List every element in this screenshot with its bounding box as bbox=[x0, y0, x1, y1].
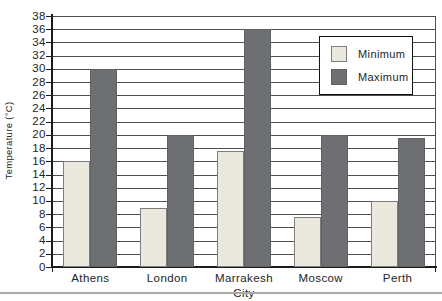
y-tick-24 bbox=[46, 108, 51, 109]
y-tick-label-28: 28 bbox=[6, 77, 46, 88]
y-tick-label-38: 38 bbox=[6, 11, 46, 22]
y-tick-18 bbox=[46, 148, 51, 149]
y-tick-32 bbox=[46, 56, 51, 57]
y-tick-label-32: 32 bbox=[6, 50, 46, 61]
bar-maximum-london bbox=[167, 135, 194, 267]
x-axis-end-tick-1 bbox=[435, 267, 436, 272]
bar-minimum-athens bbox=[63, 161, 90, 267]
bar-minimum-london bbox=[140, 208, 167, 267]
temperature-bar-chart: Temperature (°C) City Minimum Maximum 02… bbox=[0, 0, 442, 301]
plot-right-border bbox=[435, 16, 436, 267]
y-tick-label-10: 10 bbox=[6, 195, 46, 206]
y-tick-label-18: 18 bbox=[6, 143, 46, 154]
y-tick-26 bbox=[46, 95, 51, 96]
y-tick-label-6: 6 bbox=[6, 222, 46, 233]
y-tick-30 bbox=[46, 69, 51, 70]
y-axis-line bbox=[51, 14, 53, 268]
y-tick-label-8: 8 bbox=[6, 209, 46, 220]
y-tick-label-22: 22 bbox=[6, 116, 46, 127]
y-tick-label-26: 26 bbox=[6, 90, 46, 101]
y-tick-label-30: 30 bbox=[6, 63, 46, 74]
y-tick-label-12: 12 bbox=[6, 182, 46, 193]
y-tick-label-14: 14 bbox=[6, 169, 46, 180]
y-tick-8 bbox=[46, 214, 51, 215]
bar-minimum-perth bbox=[371, 201, 398, 267]
y-tick-12 bbox=[46, 188, 51, 189]
y-tick-36 bbox=[46, 29, 51, 30]
legend-entry-minimum: Minimum bbox=[331, 46, 412, 62]
legend-label-maximum: Maximum bbox=[358, 71, 408, 83]
legend-entry-maximum: Maximum bbox=[331, 69, 412, 85]
bottom-rule bbox=[0, 292, 442, 294]
bar-minimum-moscow bbox=[294, 217, 321, 267]
x-axis-end-tick-0 bbox=[52, 267, 53, 272]
x-category-label-perth: Perth bbox=[348, 272, 442, 284]
legend-label-minimum: Minimum bbox=[358, 48, 405, 60]
y-tick-label-24: 24 bbox=[6, 103, 46, 114]
bar-minimum-marrakesh bbox=[217, 151, 244, 267]
y-tick-label-0: 0 bbox=[6, 262, 46, 273]
y-tick-10 bbox=[46, 201, 51, 202]
y-tick-20 bbox=[46, 135, 51, 136]
y-tick-16 bbox=[46, 161, 51, 162]
y-tick-label-34: 34 bbox=[6, 37, 46, 48]
legend: Minimum Maximum bbox=[319, 36, 413, 95]
gridline-38 bbox=[52, 16, 436, 17]
y-tick-34 bbox=[46, 42, 51, 43]
bar-maximum-perth bbox=[398, 138, 425, 267]
y-tick-0 bbox=[46, 267, 51, 268]
bar-maximum-marrakesh bbox=[244, 29, 271, 267]
maximum-swatch-icon bbox=[331, 69, 347, 85]
y-tick-label-36: 36 bbox=[6, 24, 46, 35]
y-tick-2 bbox=[46, 254, 51, 255]
y-tick-label-4: 4 bbox=[6, 235, 46, 246]
bar-maximum-athens bbox=[90, 69, 117, 267]
minimum-swatch-icon bbox=[331, 46, 347, 62]
y-tick-22 bbox=[46, 122, 51, 123]
y-tick-label-16: 16 bbox=[6, 156, 46, 167]
y-tick-6 bbox=[46, 227, 51, 228]
y-tick-28 bbox=[46, 82, 51, 83]
y-tick-14 bbox=[46, 175, 51, 176]
y-tick-label-20: 20 bbox=[6, 129, 46, 140]
bar-maximum-moscow bbox=[321, 135, 348, 267]
y-tick-4 bbox=[46, 241, 51, 242]
y-tick-38 bbox=[46, 16, 51, 17]
y-tick-label-2: 2 bbox=[6, 248, 46, 259]
